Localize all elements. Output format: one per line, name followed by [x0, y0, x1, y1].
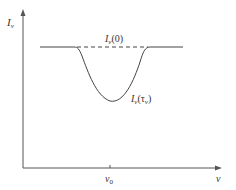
y-axis-arrow-icon [21, 9, 26, 16]
line-profile-diagram: Iν Iν(0) Iν(τν) ν0 ν [0, 0, 236, 190]
nu0-label: ν0 [105, 173, 113, 186]
continuum-label: Iν(0) [104, 33, 123, 46]
line-profile-label: Iν(τν) [130, 93, 151, 106]
absorption-profile-curve [40, 47, 183, 101]
x-axis-arrow-icon [215, 166, 222, 171]
x-axis-label: ν [216, 173, 221, 184]
y-axis-label: Iν [6, 16, 15, 30]
